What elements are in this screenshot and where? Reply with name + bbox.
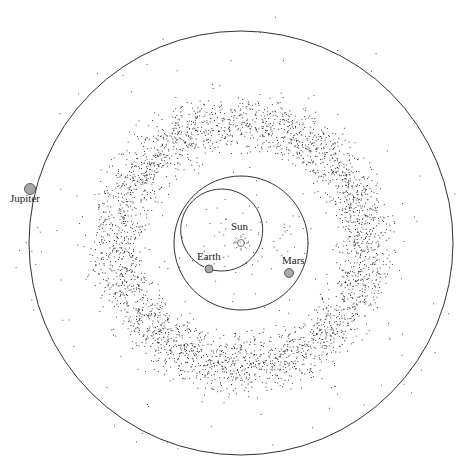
- mars-orbit: [174, 176, 308, 310]
- sun-label: Sun: [231, 220, 248, 232]
- scattered-asteroids: [16, 17, 456, 450]
- sun-icon: [233, 235, 249, 251]
- solar-system-diagram: Sun Earth Mars Jupiter: [0, 0, 463, 460]
- mars-label: Mars: [282, 254, 305, 266]
- jupiter-orbit: [29, 31, 453, 455]
- jupiter-label: Jupiter: [10, 192, 40, 204]
- asteroid-belt: [77, 84, 400, 402]
- earth-label: Earth: [197, 250, 221, 262]
- earth-orbit: [181, 189, 263, 271]
- earth-planet-icon: [205, 265, 213, 273]
- mars-planet-icon: [285, 269, 294, 278]
